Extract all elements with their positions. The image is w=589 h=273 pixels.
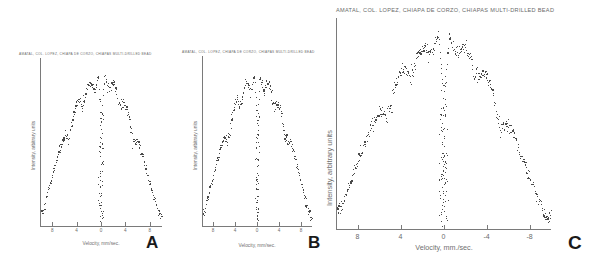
panel-a-x-axis-label: Velocity, mm/sec. xyxy=(83,241,120,246)
x-tick xyxy=(213,222,214,227)
panel-a-data-points xyxy=(40,58,162,227)
x-tick xyxy=(358,225,359,230)
x-tick-label: -8 xyxy=(526,233,532,240)
x-tick xyxy=(257,222,258,227)
panel-a: AMATAL, COL. LOPEZ, CHIAPA DE CORZO, CHI… xyxy=(0,0,180,273)
panel-c-plot-area xyxy=(336,18,551,230)
panel-a-letter: A xyxy=(146,234,158,251)
panel-c-data-points xyxy=(336,18,551,230)
x-tick xyxy=(401,225,402,230)
x-tick xyxy=(487,225,488,230)
x-tick-label: 4 xyxy=(75,229,78,234)
panel-a-plot-area xyxy=(40,58,162,227)
x-tick xyxy=(77,222,78,227)
x-tick-label: 0 xyxy=(442,233,446,240)
panel-b-plot-area xyxy=(202,56,312,227)
x-tick-label: 4 xyxy=(399,233,403,240)
panel-b-y-axis-label: Intensity, arbitrary units xyxy=(193,121,198,170)
x-tick-label: -4 xyxy=(483,233,489,240)
panel-c-x-axis-label: Velocity, mm./sec. xyxy=(415,243,472,252)
x-tick-label: 8 xyxy=(212,229,215,234)
x-tick xyxy=(52,222,53,227)
x-tick xyxy=(125,222,126,227)
x-tick xyxy=(530,225,531,230)
panel-c-letter: C xyxy=(568,233,582,252)
x-tick-label: 4 xyxy=(278,229,281,234)
x-tick xyxy=(279,222,280,227)
x-tick-label: 4 xyxy=(124,229,127,234)
x-tick xyxy=(235,222,236,227)
panel-c-y-axis-label: Intensity, arbitrary units xyxy=(325,130,334,206)
x-tick-label: 8 xyxy=(51,229,54,234)
panel-c: AMATAL, COL. LOPEZ, CHIAPA DE CORZO, CHI… xyxy=(310,0,589,273)
panel-b-data-points xyxy=(202,56,312,227)
x-tick-label: 8 xyxy=(149,229,152,234)
x-tick xyxy=(444,225,445,230)
panel-c-title: AMATAL, COL. LOPEZ, CHIAPA DE CORZO, CHI… xyxy=(336,7,554,13)
x-tick-label: 4 xyxy=(234,229,237,234)
x-tick-label: 0 xyxy=(256,229,259,234)
x-tick-label: 8 xyxy=(356,233,360,240)
x-tick xyxy=(101,222,102,227)
panel-b-title: AMATAL, COL. LOPEZ, CHIAPA DE CORZO, CHI… xyxy=(182,50,315,54)
mossbauer-spectra-figure: AMATAL, COL. LOPEZ, CHIAPA DE CORZO, CHI… xyxy=(0,0,589,273)
x-tick xyxy=(150,222,151,227)
x-tick-label: 0 xyxy=(100,229,103,234)
panel-a-title: AMATAL, COL. LOPEZ, CHIAPA DE CORZO, CHI… xyxy=(19,52,152,56)
panel-a-y-axis-label: Intensity, arbitrary units xyxy=(31,121,36,170)
x-tick xyxy=(301,222,302,227)
x-tick-label: 8 xyxy=(300,229,303,234)
panel-b-x-axis-label: Velocity, mm/sec. xyxy=(239,243,276,248)
